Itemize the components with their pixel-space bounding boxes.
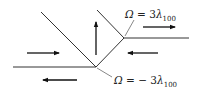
top-omega-label: Ω = 3λ100 — [124, 8, 176, 23]
arrows — [27, 22, 175, 80]
bottom-omega-label: Ω = − 3λ100 — [113, 74, 177, 89]
middle-diagonal-line — [96, 38, 124, 67]
bottom-label-leader — [97, 68, 112, 77]
upper-right-diagonal-line — [97, 10, 124, 38]
diagram-canvas: Ω = 3λ100 Ω = − 3λ100 — [0, 0, 198, 91]
left-diagonal-line — [41, 12, 96, 67]
top-label-leader — [125, 20, 134, 36]
